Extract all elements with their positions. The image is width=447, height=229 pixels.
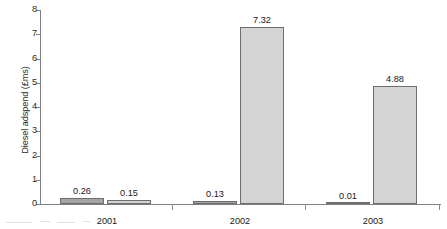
- bar-2003-series-1[interactable]: [326, 202, 370, 204]
- y-tick-label-7: 7: [11, 28, 37, 38]
- bar-2001-series-2[interactable]: [107, 200, 151, 204]
- scan-artifact: [83, 221, 90, 222]
- scan-artifact: [6, 222, 32, 223]
- y-tick-label-4: 4: [11, 101, 37, 111]
- bar-label-2002-series-2: 7.32: [234, 15, 290, 25]
- x-axis-line: [40, 204, 441, 205]
- x-tick-label-2002: 2002: [209, 216, 271, 226]
- bar-label-2003-series-1: 0.01: [320, 191, 376, 201]
- scan-artifact: [40, 221, 50, 222]
- bar-label-2002-series-1: 0.13: [187, 189, 243, 199]
- x-group-separator-1: [172, 204, 173, 210]
- bar-2001-series-1[interactable]: [60, 198, 104, 204]
- bar-group-2002: 0.13 7.32: [174, 10, 305, 204]
- bar-group-2001: 0.26 0.15: [41, 10, 172, 204]
- bar-group-2003: 0.01 4.88: [307, 10, 438, 204]
- bar-label-2003-series-2: 4.88: [367, 74, 423, 84]
- y-tick-label-2: 2: [11, 150, 37, 160]
- plot-area: 0 1 2 3 4 5 6 7 8 0.26 0.15 0.13 7.32: [41, 10, 441, 204]
- scan-artifact: [57, 222, 75, 223]
- x-group-separator-3: [439, 204, 440, 210]
- x-tick-label-2003: 2003: [342, 216, 404, 226]
- y-tick-label-8: 8: [11, 4, 37, 14]
- bar-2002-series-1[interactable]: [193, 201, 237, 204]
- bar-2003-series-2[interactable]: [373, 86, 417, 204]
- bar-label-2001-series-2: 0.15: [101, 188, 157, 198]
- y-tick-label-3: 3: [11, 125, 37, 135]
- y-tick-label-1: 1: [11, 174, 37, 184]
- y-tick-label-6: 6: [11, 53, 37, 63]
- x-group-separator-2: [305, 204, 306, 210]
- y-tick-label-0: 0: [11, 198, 37, 208]
- bar-2002-series-2[interactable]: [240, 27, 284, 205]
- y-tick-label-5: 5: [11, 77, 37, 87]
- bar-chart: Diesel adspend (£ms) 0 1 2 3 4 5 6 7 8 0…: [0, 0, 447, 229]
